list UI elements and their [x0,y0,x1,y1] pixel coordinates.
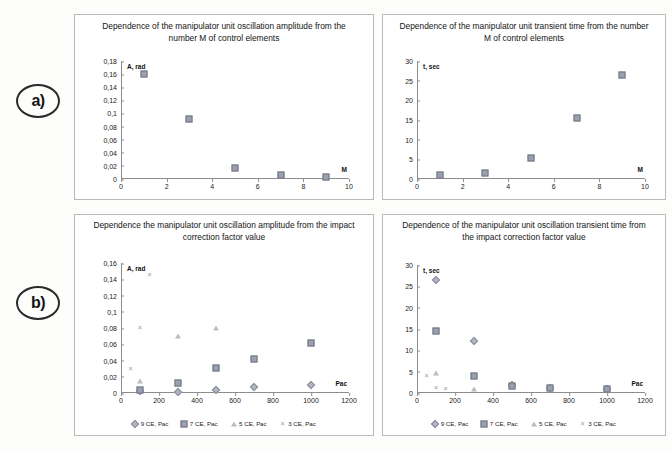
legend-label: 9 CE, Рас [141,420,169,427]
data-point-square [213,364,220,371]
y-axis-tick-label: 0,16 [103,260,121,267]
x-axis-tick-label: 800 [267,397,279,404]
data-point-square [175,379,182,386]
legend-marker [531,421,537,427]
y-axis-tick-label: 0,18 [103,58,121,65]
square-marker-icon [181,420,188,427]
legend-label: 9 CE, Рас [441,420,469,427]
x-axis-tick-label: 400 [487,397,499,404]
legend-marker [481,421,487,427]
y-axis-tick-label: 15 [405,326,417,333]
y-axis-tick-label: 0,08 [103,123,121,130]
row-label-b: b) [16,286,60,320]
x-axis-tick-label: 10 [641,183,649,190]
x-axis-tick-label: 200 [449,397,461,404]
data-point-triangle [213,326,219,331]
data-point-triangle [433,371,439,376]
legend-item: 9 CE, Рас [132,420,168,427]
data-point-square [232,165,239,172]
cross-marker-icon [280,421,286,427]
y-axis-line [121,61,122,179]
legend-label: 7 CE, Рас [190,420,218,427]
y-axis-tick-label: 0 [113,390,121,397]
legend-item: 9 CE, Рас [432,420,468,427]
y-axis-tick-label: 10 [405,136,417,143]
plot-area: A, rad Рас 00,020,040,060,080,10,120,140… [121,263,349,393]
x-axis-tick-label: 1000 [599,397,615,404]
data-point-cross [443,386,449,392]
triangle-marker-icon [231,421,237,426]
legend-item: 7 CE, Рас [181,420,217,427]
legend-label: 7 CE, Рас [490,420,518,427]
x-axis-tick-label: 8 [301,183,305,190]
x-axis-tick-label: 8 [597,183,601,190]
square-marker-icon [481,420,488,427]
data-point-triangle [175,334,181,339]
y-axis-tick-label: 0,04 [103,357,121,364]
legend-marker [580,421,586,427]
y-axis-tick-label: 0,14 [103,84,121,91]
y-axis-tick-label: 25 [405,77,417,84]
data-point-square [277,172,284,179]
x-axis-tick-label: 0 [119,397,123,404]
x-axis-tick-label: 6 [552,183,556,190]
legend-item: 7 CE, Рас [481,420,517,427]
chart-title: Dependence of the manipulator unit oscil… [383,220,665,243]
data-point-cross [137,325,143,331]
y-axis-tick-label: 20 [405,304,417,311]
y-axis-tick-label: 0 [409,176,417,183]
legend-marker [280,421,286,427]
data-point-square [140,71,147,78]
y-axis-tick-label: 20 [405,97,417,104]
x-axis-tick-label: 0 [415,183,419,190]
x-axis-label: Рас [336,380,347,387]
y-axis-tick-label: 0,1 [107,110,121,117]
data-point-square [186,116,193,123]
row-label-a: a) [16,84,60,118]
data-point-square [436,172,443,179]
diamond-marker-icon [431,419,439,427]
chart-card-top-right: Dependence of the manipulator unit trans… [382,14,666,200]
legend-marker [231,421,237,427]
plot-area: A, rad M 00,020,040,060,080,10,120,140,1… [121,61,349,179]
y-axis-tick-label: 0,06 [103,136,121,143]
data-point-square [573,114,580,121]
x-axis-tick-label: 400 [191,397,203,404]
y-axis-label: t, sec [423,63,440,70]
y-axis-tick-label: 5 [409,156,417,163]
plot-area: t, sec Рас 05101520253002004006008001000… [417,265,645,393]
data-point-diamond [250,382,258,390]
x-axis-tick-label: 0 [119,183,123,190]
y-axis-label: A, rad [127,265,145,272]
y-axis-tick-label: 25 [405,283,417,290]
chart-legend: 9 CE, Рас7 CE, Рас5 CE, Рас3 CE, Рас [75,420,373,427]
y-axis-tick-label: 30 [405,262,417,269]
y-axis-tick-label: 5 [409,368,417,375]
y-axis-tick-label: 0 [409,390,417,397]
data-point-square [547,385,554,392]
row-label-a-text: a) [31,92,44,110]
x-axis-tick-label: 10 [345,183,353,190]
y-axis-tick-label: 15 [405,117,417,124]
legend-item: 5 CE, Рас [531,420,567,427]
y-axis-tick-label: 0,02 [103,162,121,169]
x-axis-tick-label: 0 [415,397,419,404]
x-axis-tick-label: 2 [461,183,465,190]
x-axis-tick-label: 600 [525,397,537,404]
y-axis-tick-label: 0,12 [103,97,121,104]
data-point-square [433,327,440,334]
y-axis-tick-label: 30 [405,58,417,65]
data-point-square [528,155,535,162]
x-axis-label: M [638,166,643,173]
data-point-square [308,339,315,346]
data-point-triangle [471,387,477,392]
x-axis-line [121,178,349,179]
legend-marker [181,421,187,427]
data-point-square [619,71,626,78]
x-axis-tick-label: 1000 [303,397,319,404]
data-point-diamond [307,381,315,389]
y-axis-tick-label: 0,04 [103,149,121,156]
x-axis-tick-label: 200 [153,397,165,404]
data-point-square [137,386,144,393]
figure-canvas: a) b) Dependence of the manipulator unit… [0,0,672,452]
